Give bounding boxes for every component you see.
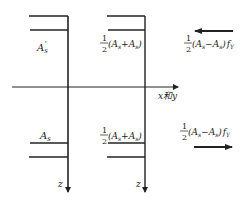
bottom-force-label: 1 2 (As−As)fY [180,122,231,142]
svg-text:2: 2 [102,137,107,146]
horizontal-axis-label: x和y [158,91,178,101]
diagram-canvas: x和y As' As z 1 2 (As+As) 1 [0,0,248,200]
left-bottom-label: As [39,130,51,143]
svg-text:(As−As)fY: (As−As)fY [192,39,235,50]
middle-top-label: 1 2 (As+As) [100,34,142,54]
svg-text:1: 1 [102,126,107,135]
left-top-label: As' [36,40,48,55]
svg-text:(As+As): (As+As) [108,131,142,142]
svg-text:(As−As)fY: (As−As)fY [188,127,231,138]
svg-text:2: 2 [186,45,191,54]
middle-z-label: z [135,179,141,189]
svg-text:1: 1 [102,34,107,43]
svg-text:1: 1 [186,34,191,43]
left-section: As' As z [29,16,68,192]
left-z-label: z [57,179,63,189]
svg-text:(As+As): (As+As) [108,39,142,50]
svg-text:2: 2 [102,45,107,54]
top-force-label: 1 2 (As−As)fY [184,34,235,54]
right-forces: 1 2 (As−As)fY 1 2 (As−As)fY [180,31,235,147]
svg-text:2: 2 [182,133,187,142]
middle-section: 1 2 (As+As) 1 2 (As+As) z [100,16,145,192]
svg-text:1: 1 [182,122,187,131]
